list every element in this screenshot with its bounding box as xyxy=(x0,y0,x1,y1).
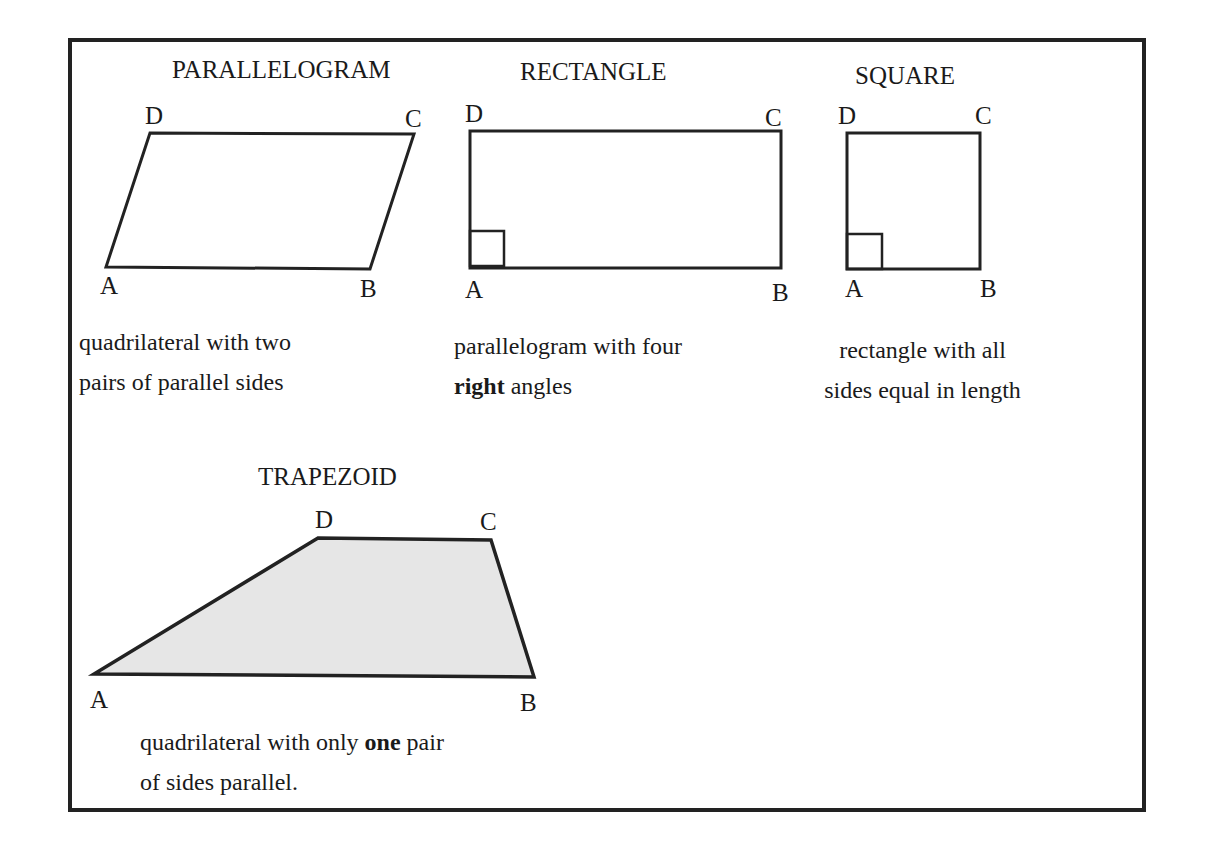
square-title: SQUARE xyxy=(855,62,955,90)
vertex-d: D xyxy=(465,100,483,128)
vertex-b: B xyxy=(772,279,789,307)
vertex-a: A xyxy=(90,686,108,714)
square-description: rectangle with all sides equal in length xyxy=(800,330,1045,410)
vertex-c: C xyxy=(405,105,422,133)
vertex-c: C xyxy=(765,104,782,132)
vertex-b: B xyxy=(980,275,997,303)
parallelogram-shape xyxy=(106,133,414,269)
parallelogram-description: quadrilateral with two pairs of parallel… xyxy=(79,322,291,402)
rectangle-shape xyxy=(470,131,781,268)
trapezoid-description: quadrilateral with only one pair of side… xyxy=(140,722,444,802)
rectangle-title: RECTANGLE xyxy=(520,58,667,86)
rectangle-description: parallelogram with four right angles xyxy=(454,326,682,406)
vertex-a: A xyxy=(100,272,118,300)
right-angle-marker xyxy=(847,234,882,269)
vertex-d: D xyxy=(315,506,333,534)
trapezoid-shape xyxy=(94,538,534,677)
parallelogram-title: PARALLELOGRAM xyxy=(172,56,391,84)
vertex-c: C xyxy=(975,102,992,130)
vertex-c: C xyxy=(480,508,497,536)
vertex-b: B xyxy=(360,275,377,303)
trapezoid-title: TRAPEZOID xyxy=(258,463,397,491)
vertex-b: B xyxy=(520,689,537,717)
right-angle-marker xyxy=(470,231,504,266)
vertex-d: D xyxy=(145,102,163,130)
vertex-a: A xyxy=(845,275,863,303)
vertex-d: D xyxy=(838,102,856,130)
square-shape xyxy=(847,133,980,269)
vertex-a: A xyxy=(465,276,483,304)
